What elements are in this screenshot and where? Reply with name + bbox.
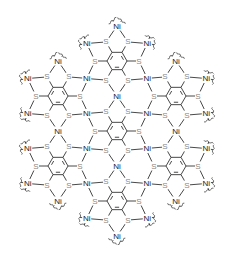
- sulfur-atom: S: [33, 92, 38, 101]
- sulfur-atom: S: [33, 162, 38, 171]
- benzene-double-bond: [111, 56, 113, 60]
- benzene-double-bond: [111, 126, 113, 130]
- sulfur-atom: S: [66, 142, 71, 151]
- nickel-atom: Ni: [144, 39, 152, 48]
- nickel-atom: Ni: [203, 144, 211, 153]
- benzene-bond: [122, 201, 127, 210]
- bond-layer: [19, 17, 214, 244]
- sulfur-atom: S: [184, 142, 189, 151]
- nickel-atom: Ni: [144, 109, 152, 118]
- nickel-atom: Ni: [54, 57, 62, 66]
- benzene-double-bond: [170, 91, 172, 95]
- sulfur-atom: S: [103, 76, 108, 85]
- benzene-bond: [122, 131, 127, 140]
- sulfur-atom: S: [103, 146, 108, 155]
- nickel-atom: Ni: [24, 74, 32, 83]
- sulfur-atom: S: [44, 111, 49, 120]
- sulfur-atom: S: [184, 181, 189, 190]
- wavy-bond-truncation-icon: [204, 118, 213, 122]
- sulfur-atom: S: [125, 177, 130, 186]
- nickel-atom: Ni: [144, 179, 152, 188]
- benzene-bond: [48, 96, 53, 105]
- benzene-double-bond: [121, 196, 123, 200]
- sulfur-atom: S: [92, 197, 97, 206]
- benzene-double-bond: [52, 91, 54, 95]
- nickel-atom: Ni: [144, 144, 152, 153]
- nickel-atom: Ni: [24, 144, 32, 153]
- sulfur-atom: S: [162, 72, 167, 81]
- sulfur-atom: S: [44, 72, 49, 81]
- sulfur-atom: S: [125, 146, 130, 155]
- nickel-atom: Ni: [113, 232, 121, 241]
- sulfur-atom: S: [103, 177, 108, 186]
- nickel-atom: Ni: [203, 179, 211, 188]
- nickel-atom: Ni: [83, 109, 91, 118]
- sulfur-atom: S: [77, 92, 82, 101]
- nickel-atom: Ni: [172, 197, 180, 206]
- sulfur-atom: S: [136, 127, 141, 136]
- nickel-atom: Ni: [113, 162, 121, 171]
- nickel-atom: Ni: [54, 197, 62, 206]
- nickel-atom: Ni: [203, 74, 211, 83]
- benzene-bond: [63, 157, 68, 166]
- benzene-bond: [48, 87, 53, 96]
- sulfur-atom: S: [162, 181, 167, 190]
- benzene-bond: [122, 61, 127, 70]
- sulfur-atom: S: [125, 107, 130, 116]
- benzene-bond: [166, 166, 171, 175]
- sulfur-atom: S: [103, 216, 108, 225]
- sulfur-atom: S: [136, 197, 141, 206]
- nickel-atom: Ni: [113, 22, 121, 31]
- sulfur-atom: S: [125, 76, 130, 85]
- benzene-bond: [48, 157, 53, 166]
- sulfur-atom: S: [162, 142, 167, 151]
- sulfur-atom: S: [184, 72, 189, 81]
- benzene-double-bond: [111, 196, 113, 200]
- nickel-atom: Ni: [113, 92, 121, 101]
- benzene-bond: [107, 52, 112, 61]
- benzene-double-bond: [62, 161, 64, 165]
- nickel-atom: Ni: [172, 57, 180, 66]
- nickel-atom: Ni: [83, 179, 91, 188]
- benzene-bond: [107, 192, 112, 201]
- benzene-bond: [166, 157, 171, 166]
- sulfur-atom: S: [77, 162, 82, 171]
- benzene-bond: [122, 192, 127, 201]
- sulfur-atom: S: [184, 111, 189, 120]
- sulfur-atom: S: [151, 162, 156, 171]
- sulfur-atom: S: [151, 92, 156, 101]
- benzene-bond: [48, 166, 53, 175]
- sulfur-atom: S: [103, 37, 108, 46]
- nickel-atom: Ni: [203, 109, 211, 118]
- wavy-bond-truncation-icon: [145, 223, 154, 227]
- benzene-bond: [166, 96, 171, 105]
- sulfur-atom: S: [125, 37, 130, 46]
- benzene-bond: [63, 87, 68, 96]
- sulfur-atom: S: [44, 181, 49, 190]
- nickel-atom: Ni: [83, 214, 91, 223]
- sulfur-atom: S: [195, 162, 200, 171]
- nickel-atom: Ni: [24, 109, 32, 118]
- sulfur-atom: S: [92, 127, 97, 136]
- sulfur-atom: S: [66, 181, 71, 190]
- benzene-bond: [63, 96, 68, 105]
- sulfur-atom: S: [103, 107, 108, 116]
- benzene-double-bond: [170, 161, 172, 165]
- benzene-bond: [107, 131, 112, 140]
- nickel-atom: Ni: [83, 144, 91, 153]
- benzene-bond: [166, 87, 171, 96]
- benzene-bond: [107, 122, 112, 131]
- benzene-bond: [63, 166, 68, 175]
- sulfur-atom: S: [44, 142, 49, 151]
- nickel-atom: Ni: [54, 127, 62, 136]
- ni-bht-framework-diagram: SSSSSSSSSSSSSSSSSSSSSSSSSSSSSSSSSSSSSSSS…: [0, 0, 234, 261]
- benzene-double-bond: [52, 161, 54, 165]
- benzene-bond: [122, 122, 127, 131]
- sulfur-atom: S: [125, 216, 130, 225]
- benzene-bond: [181, 87, 186, 96]
- sulfur-atom: S: [195, 92, 200, 101]
- sulfur-atom: S: [66, 111, 71, 120]
- nickel-atom: Ni: [83, 74, 91, 83]
- nickel-atom: Ni: [83, 39, 91, 48]
- nickel-atom: Ni: [172, 127, 180, 136]
